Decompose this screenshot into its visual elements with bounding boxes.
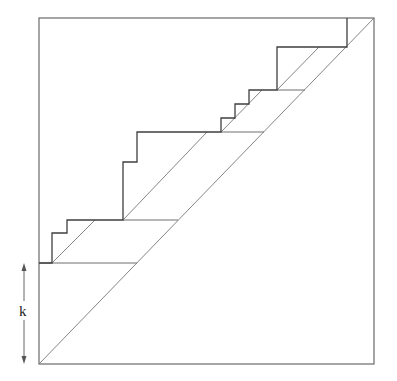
parallel-diagonals bbox=[52, 47, 319, 263]
arrow-up-icon bbox=[22, 263, 27, 271]
k-label: k bbox=[19, 303, 27, 319]
staircase-path bbox=[39, 18, 347, 263]
k-dimension-arrow: k bbox=[19, 263, 27, 364]
arrow-down-icon bbox=[22, 356, 27, 364]
parallel-diagonal bbox=[52, 220, 95, 263]
parallel-diagonal bbox=[277, 47, 319, 90]
horizontal-segments bbox=[39, 90, 305, 263]
parallel-diagonal bbox=[221, 90, 262, 132]
parallel-diagonal bbox=[123, 132, 207, 220]
diagram-canvas: k bbox=[0, 0, 397, 381]
main-diagonal bbox=[39, 18, 374, 364]
